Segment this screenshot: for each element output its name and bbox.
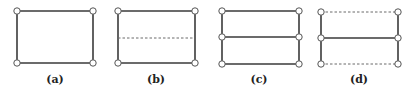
node-circle-icon	[14, 60, 20, 66]
node-circle-icon	[115, 60, 121, 66]
node-circle-icon	[115, 8, 121, 14]
node-circle-icon	[219, 34, 225, 40]
panel-c: (c)	[219, 8, 302, 86]
node-circle-icon	[296, 8, 302, 14]
node-circle-icon	[296, 61, 302, 67]
node-circle-icon	[296, 34, 302, 40]
panel-label: (b)	[147, 73, 165, 86]
diagram-canvas: (a)(b)(c)(d)	[0, 0, 415, 95]
node-circle-icon	[90, 8, 96, 14]
node-circle-icon	[318, 9, 324, 15]
node-circle-icon	[219, 61, 225, 67]
node-circle-icon	[318, 35, 324, 41]
node-circle-icon	[395, 35, 401, 41]
panel-b: (b)	[115, 8, 198, 86]
panel-label: (d)	[350, 73, 368, 86]
node-circle-icon	[219, 8, 225, 14]
node-circle-icon	[90, 60, 96, 66]
node-circle-icon	[395, 9, 401, 15]
panels-group: (a)(b)(c)(d)	[14, 8, 401, 86]
node-circle-icon	[14, 8, 20, 14]
node-circle-icon	[318, 61, 324, 67]
node-circle-icon	[192, 60, 198, 66]
panel-label: (c)	[250, 73, 267, 86]
panel-d: (d)	[318, 9, 401, 86]
node-circle-icon	[395, 61, 401, 67]
panel-a: (a)	[14, 8, 96, 86]
panel-label: (a)	[46, 73, 64, 86]
node-circle-icon	[192, 8, 198, 14]
